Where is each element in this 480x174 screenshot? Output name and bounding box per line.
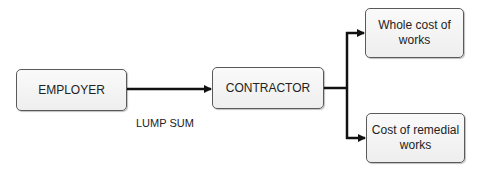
contractor-label: CONTRACTOR: [226, 81, 310, 96]
employer-label: EMPLOYER: [38, 83, 105, 98]
contractor-node: CONTRACTOR: [212, 67, 324, 109]
remedial-cost-label: Cost of remedial works: [367, 123, 464, 153]
whole-cost-node: Whole cost of works: [365, 8, 464, 58]
employer-node: EMPLOYER: [16, 69, 127, 111]
lump-sum-label: LUMP SUM: [136, 117, 194, 129]
whole-cost-label: Whole cost of works: [366, 18, 463, 48]
remedial-cost-node: Cost of remedial works: [366, 113, 465, 163]
